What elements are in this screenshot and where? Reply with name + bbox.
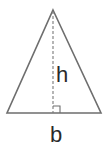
base-label: b <box>50 122 62 147</box>
triangle-svg: h b <box>0 0 108 152</box>
triangle-outline <box>7 10 101 113</box>
right-angle-marker-icon <box>53 106 60 113</box>
triangle-diagram: h b <box>0 0 108 152</box>
height-label: h <box>56 62 68 87</box>
